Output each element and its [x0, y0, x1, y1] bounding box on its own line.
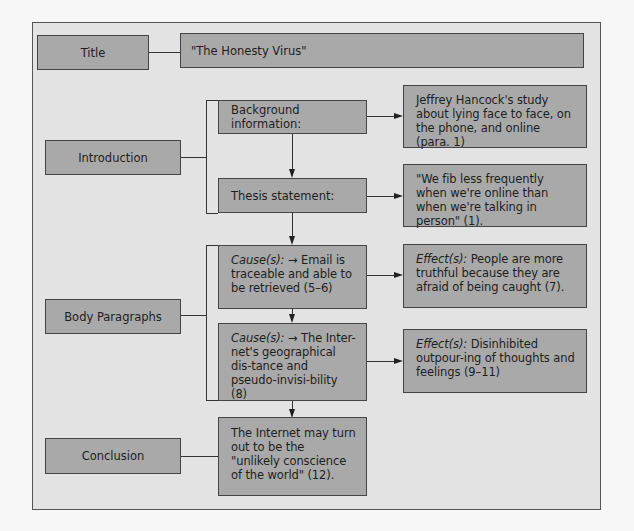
arrow-line	[367, 275, 395, 276]
arrow-line	[367, 116, 395, 117]
effect-2-prefix: Effect(s):	[416, 337, 467, 351]
background-detail: Jeffrey Hancock's study about lying face…	[416, 93, 571, 149]
connector-line	[181, 157, 207, 158]
thesis-detail-box: "We fib less frequently when we're onlin…	[403, 164, 587, 227]
effect-1-box: Effect(s): People are more truthful beca…	[403, 244, 587, 308]
bracket-line	[206, 400, 218, 401]
thesis-detail: "We fib less frequently when we're onlin…	[416, 172, 548, 228]
conclusion-content: The Internet may turn out to be the "unl…	[231, 426, 356, 482]
connector-line	[181, 315, 207, 316]
title-content: "The Honesty Virus"	[191, 44, 306, 58]
introduction-label-box: Introduction	[45, 140, 181, 175]
conclusion-content-box: The Internet may turn out to be the "unl…	[218, 417, 367, 496]
effect-2-box: Effect(s): Disinhibited outpour-ing of t…	[403, 329, 587, 393]
conclusion-label: Conclusion	[82, 449, 145, 463]
arrow-line	[292, 213, 293, 237]
body-paragraphs-label-box: Body Paragraphs	[45, 299, 181, 334]
background-detail-box: Jeffrey Hancock's study about lying face…	[403, 85, 587, 148]
cause-2-prefix: Cause(s):	[231, 331, 284, 345]
arrow-down-icon	[289, 169, 295, 178]
title-label: Title	[81, 46, 106, 60]
bracket-line	[206, 100, 218, 101]
arrow-right-icon	[394, 358, 403, 364]
title-content-box: "The Honesty Virus"	[180, 33, 584, 68]
bracket-line	[206, 213, 218, 214]
arrow-down-icon	[289, 236, 295, 245]
bracket-line	[206, 245, 218, 246]
thesis-box: Thesis statement:	[218, 178, 367, 213]
connector-line	[181, 456, 218, 457]
connector-line	[149, 52, 180, 53]
arrow-line	[367, 196, 395, 197]
conclusion-label-box: Conclusion	[45, 438, 181, 474]
arrow-right-icon	[394, 113, 403, 119]
effect-1-prefix: Effect(s):	[416, 252, 467, 266]
arrow-line	[292, 134, 293, 170]
cause-1-prefix: Cause(s):	[231, 253, 284, 267]
cause-1-box: Cause(s): → Email is traceable and able …	[218, 245, 367, 309]
background-info-label: Background information:	[231, 103, 366, 131]
arrow-right-icon	[394, 193, 403, 199]
arrow-down-icon	[289, 314, 295, 323]
body-paragraphs-label: Body Paragraphs	[64, 310, 162, 324]
cause-2-box: Cause(s): → The Inter-net's geographical…	[218, 323, 367, 401]
arrow-line	[367, 361, 395, 362]
bracket-line	[206, 100, 207, 214]
title-label-box: Title	[37, 35, 149, 70]
background-info-box: Background information:	[218, 100, 367, 134]
bracket-line	[206, 245, 207, 401]
arrow-right-icon	[394, 272, 403, 278]
thesis-label: Thesis statement:	[231, 189, 334, 203]
introduction-label: Introduction	[78, 151, 148, 165]
